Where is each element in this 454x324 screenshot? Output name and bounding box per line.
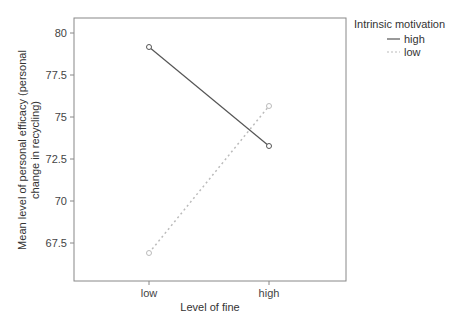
legend: Intrinsic motivation high low (354, 18, 445, 58)
legend-label-low: low (404, 46, 421, 58)
svg-text:change in recycling): change in recycling) (29, 101, 41, 199)
series-high (147, 45, 272, 149)
y-tick-label: 67.5 (46, 237, 67, 249)
data-point (267, 104, 272, 109)
data-point (147, 45, 152, 50)
plot-frame (74, 18, 346, 281)
y-axis-title: Mean level of personal efficacy (persona… (16, 50, 41, 250)
data-point (267, 144, 272, 149)
svg-text:Mean level of personal efficac: Mean level of personal efficacy (persona… (16, 50, 28, 250)
x-axis: low high Level of fine (141, 281, 280, 313)
interaction-plot: 80 77.5 75 72.5 70 67.5 Mean level of pe… (0, 0, 454, 324)
legend-title: Intrinsic motivation (354, 18, 445, 30)
y-tick-label: 80 (55, 27, 67, 39)
y-tick-label: 70 (55, 195, 67, 207)
x-axis-title: Level of fine (180, 301, 239, 313)
y-tick-label: 72.5 (46, 153, 67, 165)
legend-label-high: high (404, 33, 425, 45)
y-tick-label: 77.5 (46, 69, 67, 81)
y-tick-label: 75 (55, 111, 67, 123)
data-point (147, 251, 152, 256)
y-axis: 80 77.5 75 72.5 70 67.5 (46, 27, 74, 249)
series-low (147, 104, 272, 256)
x-tick-label: high (259, 287, 280, 299)
x-tick-label: low (141, 287, 158, 299)
